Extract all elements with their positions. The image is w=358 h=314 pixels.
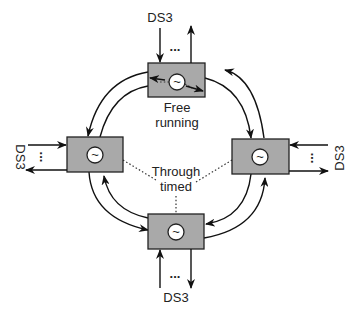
- oscillator-glyph: ~: [91, 147, 99, 162]
- link-left-bottom: [89, 172, 148, 230]
- node-bottom[interactable]: ~: [148, 214, 204, 249]
- oscillator-glyph: ~: [256, 149, 264, 164]
- arrow-top-to-right: [205, 78, 251, 138]
- arrow-bottom-to-right: [204, 178, 265, 238]
- node-right[interactable]: ~: [232, 139, 289, 174]
- node-left[interactable]: ~: [67, 137, 123, 172]
- oscillator-glyph: ~: [172, 224, 180, 239]
- tributary-bottom: ... DS3: [160, 249, 191, 305]
- through-timed-label-line1: Through: [152, 164, 200, 179]
- ring-timing-diagram: ~ ~ ~ ~ ... DS3 ... DS3: [0, 0, 358, 314]
- arrow-right-to-bottom: [206, 174, 251, 224]
- ds3-label-left: DS3: [13, 144, 28, 169]
- free-running-label-line2: running: [155, 115, 198, 130]
- node-top[interactable]: ~: [148, 63, 205, 97]
- ellipsis-right: ...: [301, 153, 316, 164]
- link-top-right: [205, 70, 264, 138]
- link-top-left: [88, 72, 148, 137]
- ds3-label-right: DS3: [332, 145, 347, 170]
- diagram-canvas: ~ ~ ~ ~ ... DS3 ... DS3: [0, 0, 358, 314]
- arrow-left-to-bottom: [89, 172, 148, 230]
- ellipsis-bottom: ...: [170, 266, 181, 281]
- arrow-right-to-top: [225, 70, 264, 138]
- free-running-label-line1: Free: [164, 100, 191, 115]
- tributary-right: ... DS3: [289, 145, 347, 171]
- dotted-right: [196, 160, 232, 182]
- ds3-label-bottom: DS3: [163, 290, 188, 305]
- ellipsis-top: ...: [170, 39, 181, 54]
- oscillator-glyph: ~: [173, 74, 181, 89]
- arrow-top-to-left: [88, 72, 148, 136]
- ellipsis-left: ...: [37, 152, 52, 163]
- ds3-label-top: DS3: [147, 10, 172, 25]
- through-timed-label-line2: timed: [160, 179, 192, 194]
- tributary-left: ... DS3: [13, 144, 67, 170]
- link-right-bottom: [204, 174, 265, 238]
- arrow-bottom-to-left: [104, 176, 148, 218]
- tributary-top: ... DS3: [147, 10, 191, 63]
